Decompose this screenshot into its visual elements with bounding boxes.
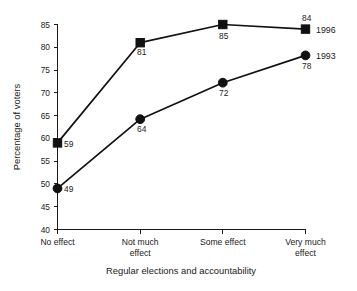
series-1996-marker-no-effect <box>53 139 61 147</box>
value-label-1993-very-much-effect: 78 <box>302 61 312 71</box>
y-tick-label-60: 60 <box>41 133 51 143</box>
x-axis-category-labels: No effect Not much effect Some effect Ve… <box>40 237 326 258</box>
series-1996-marker-some-effect <box>219 20 227 28</box>
y-tick-label-80: 80 <box>41 42 51 52</box>
x-label-very-much-effect-line2: effect <box>295 248 316 258</box>
legend-label-1993: 1993 <box>316 51 336 61</box>
x-label-very-much-effect-line1: Very much <box>285 237 326 247</box>
value-label-1996-very-much-effect: 84 <box>302 13 312 23</box>
series-1996 <box>53 20 309 147</box>
series-1996-marker-very-much-effect <box>301 25 309 33</box>
x-axis-title: Regular elections and accountability <box>106 265 256 276</box>
x-label-no-effect: No effect <box>40 237 75 247</box>
series-1996-line <box>58 25 306 143</box>
value-label-1996-no-effect: 59 <box>64 139 74 149</box>
y-axis-tick-labels: 85 80 75 70 65 60 55 50 45 40 <box>41 20 51 235</box>
line-chart: 85 80 75 70 65 60 55 50 45 40 No effect … <box>0 0 357 291</box>
x-label-not-much-effect-line1: Not much <box>122 237 159 247</box>
y-tick-label-65: 65 <box>41 111 51 121</box>
series-1993-marker-some-effect <box>218 78 227 87</box>
y-axis-title: Percentage of voters <box>11 83 22 170</box>
y-tick-label-40: 40 <box>41 225 51 235</box>
chart-legend: 1996 1993 <box>316 25 336 61</box>
value-label-1996-not-much-effect: 81 <box>137 47 147 57</box>
series-1993-line <box>58 55 306 188</box>
y-tick-label-50: 50 <box>41 179 51 189</box>
series-1993-marker-not-much-effect <box>136 115 145 124</box>
value-label-1996-some-effect: 85 <box>219 31 229 41</box>
value-label-1993-some-effect: 72 <box>219 88 229 98</box>
series-1996-marker-not-much-effect <box>136 39 144 47</box>
series-1993-marker-very-much-effect <box>301 51 310 60</box>
series-1993-marker-no-effect <box>53 184 62 193</box>
y-tick-label-85: 85 <box>41 20 51 30</box>
series-1993 <box>53 51 310 193</box>
x-label-not-much-effect-line2: effect <box>130 248 151 258</box>
legend-label-1996: 1996 <box>316 25 336 35</box>
series-1996-value-labels: 59 81 85 84 <box>64 13 312 149</box>
chart-figure: 85 80 75 70 65 60 55 50 45 40 No effect … <box>0 0 357 291</box>
series-1993-value-labels: 49 64 72 78 <box>64 61 312 194</box>
y-tick-label-75: 75 <box>41 65 51 75</box>
x-label-some-effect: Some effect <box>200 237 246 247</box>
y-tick-label-45: 45 <box>41 202 51 212</box>
y-tick-label-55: 55 <box>41 156 51 166</box>
axes <box>58 25 306 230</box>
value-label-1993-not-much-effect: 64 <box>137 124 147 134</box>
y-tick-label-70: 70 <box>41 88 51 98</box>
value-label-1993-no-effect: 49 <box>64 184 74 194</box>
